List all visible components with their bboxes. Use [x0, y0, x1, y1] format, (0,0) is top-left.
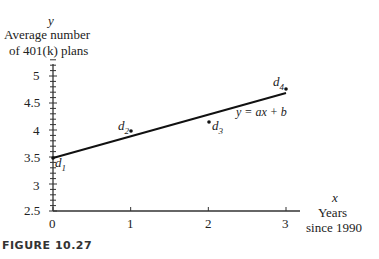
x-axis-title-line1: Years — [318, 205, 347, 221]
x-tick-label: 0 — [49, 216, 56, 232]
x-tick-label: 1 — [127, 216, 134, 232]
x-tick-label: 3 — [282, 216, 289, 232]
line-equation-label: y = ax + b — [236, 105, 287, 120]
point-label-d1: d1 — [55, 155, 66, 173]
y-tick-label: 4.5 — [24, 95, 40, 111]
y-tick-label: 5 — [33, 68, 40, 84]
data-point-d2 — [129, 129, 133, 133]
point-label-d3: d3 — [212, 118, 223, 136]
x-axis-title-line2: since 1990 — [306, 220, 362, 236]
figure-caption: FIGURE 10.27 — [2, 239, 92, 252]
y-axis-title-line2: of 401(k) plans — [9, 43, 88, 59]
y-tick-label: 2.5 — [24, 203, 40, 219]
point-label-d4: d4 — [273, 74, 284, 92]
regression-line — [53, 93, 286, 158]
y-tick-label: 3.5 — [24, 150, 40, 166]
data-point-d4 — [284, 87, 288, 91]
y-axis-title-line1: Average number — [4, 27, 90, 43]
x-tick-label: 2 — [205, 216, 212, 232]
y-tick-label: 3 — [33, 178, 40, 194]
x-axis-variable: x — [332, 190, 338, 206]
point-label-d2: d2 — [118, 118, 129, 136]
y-tick-label: 4 — [33, 123, 40, 139]
data-point-d3 — [207, 120, 211, 124]
